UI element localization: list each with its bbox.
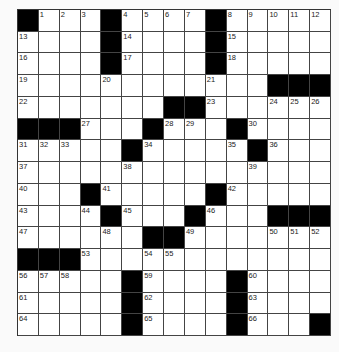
crossword-cell[interactable] [206, 140, 227, 162]
crossword-cell[interactable]: 40 [18, 184, 39, 206]
crossword-cell[interactable] [81, 162, 102, 184]
crossword-cell[interactable] [81, 97, 102, 119]
crossword-cell[interactable] [206, 119, 227, 141]
crossword-cell[interactable] [101, 97, 122, 119]
crossword-cell[interactable] [60, 184, 81, 206]
crossword-cell[interactable] [164, 314, 185, 336]
crossword-cell[interactable]: 20 [101, 75, 122, 97]
crossword-cell[interactable] [60, 293, 81, 315]
crossword-cell[interactable] [289, 162, 310, 184]
crossword-cell[interactable] [310, 32, 331, 54]
crossword-cell[interactable]: 15 [227, 32, 248, 54]
crossword-cell[interactable] [101, 162, 122, 184]
crossword-cell[interactable]: 14 [122, 32, 143, 54]
crossword-cell[interactable] [248, 206, 269, 228]
crossword-cell[interactable] [227, 75, 248, 97]
crossword-cell[interactable]: 58 [60, 271, 81, 293]
crossword-cell[interactable] [81, 140, 102, 162]
crossword-cell[interactable] [122, 227, 143, 249]
crossword-cell[interactable] [164, 32, 185, 54]
crossword-cell[interactable]: 64 [18, 314, 39, 336]
crossword-cell[interactable] [227, 206, 248, 228]
crossword-cell[interactable]: 34 [143, 140, 164, 162]
crossword-cell[interactable] [39, 314, 60, 336]
crossword-cell[interactable] [81, 293, 102, 315]
crossword-cell[interactable]: 48 [101, 227, 122, 249]
crossword-cell[interactable]: 42 [227, 184, 248, 206]
crossword-cell[interactable] [185, 184, 206, 206]
crossword-cell[interactable] [289, 119, 310, 141]
crossword-cell[interactable] [60, 162, 81, 184]
crossword-cell[interactable] [143, 206, 164, 228]
crossword-cell[interactable]: 44 [81, 206, 102, 228]
crossword-cell[interactable] [39, 53, 60, 75]
crossword-cell[interactable]: 19 [18, 75, 39, 97]
crossword-cell[interactable] [248, 227, 269, 249]
crossword-cell[interactable] [206, 249, 227, 271]
crossword-cell[interactable] [248, 53, 269, 75]
crossword-cell[interactable] [310, 162, 331, 184]
crossword-cell[interactable]: 49 [185, 227, 206, 249]
crossword-cell[interactable] [185, 53, 206, 75]
crossword-cell[interactable] [268, 119, 289, 141]
crossword-cell[interactable] [268, 184, 289, 206]
crossword-cell[interactable] [60, 206, 81, 228]
crossword-cell[interactable] [289, 271, 310, 293]
crossword-cell[interactable] [268, 32, 289, 54]
crossword-cell[interactable]: 3 [81, 10, 102, 32]
crossword-cell[interactable] [122, 119, 143, 141]
crossword-cell[interactable] [310, 293, 331, 315]
crossword-cell[interactable]: 65 [143, 314, 164, 336]
crossword-cell[interactable] [206, 162, 227, 184]
crossword-cell[interactable]: 12 [310, 10, 331, 32]
crossword-cell[interactable]: 53 [81, 249, 102, 271]
crossword-cell[interactable] [39, 32, 60, 54]
crossword-cell[interactable] [39, 162, 60, 184]
crossword-cell[interactable] [185, 162, 206, 184]
crossword-cell[interactable]: 60 [248, 271, 269, 293]
crossword-cell[interactable]: 54 [143, 249, 164, 271]
crossword-cell[interactable]: 1 [39, 10, 60, 32]
crossword-cell[interactable]: 9 [248, 10, 269, 32]
crossword-cell[interactable] [81, 314, 102, 336]
crossword-cell[interactable]: 17 [122, 53, 143, 75]
crossword-cell[interactable]: 62 [143, 293, 164, 315]
crossword-cell[interactable]: 11 [289, 10, 310, 32]
crossword-cell[interactable] [164, 184, 185, 206]
crossword-cell[interactable] [310, 249, 331, 271]
crossword-cell[interactable] [268, 162, 289, 184]
crossword-cell[interactable]: 45 [122, 206, 143, 228]
crossword-cell[interactable]: 59 [143, 271, 164, 293]
crossword-cell[interactable] [289, 53, 310, 75]
crossword-cell[interactable] [60, 227, 81, 249]
crossword-cell[interactable] [164, 271, 185, 293]
crossword-cell[interactable] [268, 271, 289, 293]
crossword-cell[interactable]: 4 [122, 10, 143, 32]
crossword-cell[interactable]: 50 [268, 227, 289, 249]
crossword-cell[interactable] [310, 184, 331, 206]
crossword-cell[interactable]: 32 [39, 140, 60, 162]
crossword-cell[interactable]: 5 [143, 10, 164, 32]
crossword-cell[interactable] [227, 249, 248, 271]
crossword-cell[interactable] [185, 314, 206, 336]
crossword-cell[interactable] [227, 227, 248, 249]
crossword-cell[interactable]: 56 [18, 271, 39, 293]
crossword-cell[interactable] [268, 314, 289, 336]
crossword-cell[interactable] [101, 314, 122, 336]
crossword-cell[interactable] [60, 97, 81, 119]
crossword-cell[interactable] [60, 53, 81, 75]
crossword-cell[interactable]: 22 [18, 97, 39, 119]
crossword-cell[interactable]: 8 [227, 10, 248, 32]
crossword-cell[interactable]: 21 [206, 75, 227, 97]
crossword-cell[interactable] [39, 97, 60, 119]
crossword-cell[interactable] [81, 75, 102, 97]
crossword-cell[interactable]: 16 [18, 53, 39, 75]
crossword-cell[interactable] [122, 97, 143, 119]
crossword-cell[interactable] [185, 249, 206, 271]
crossword-cell[interactable] [81, 53, 102, 75]
crossword-cell[interactable] [122, 75, 143, 97]
crossword-cell[interactable] [289, 249, 310, 271]
crossword-cell[interactable] [39, 227, 60, 249]
crossword-cell[interactable]: 24 [268, 97, 289, 119]
crossword-cell[interactable] [101, 271, 122, 293]
